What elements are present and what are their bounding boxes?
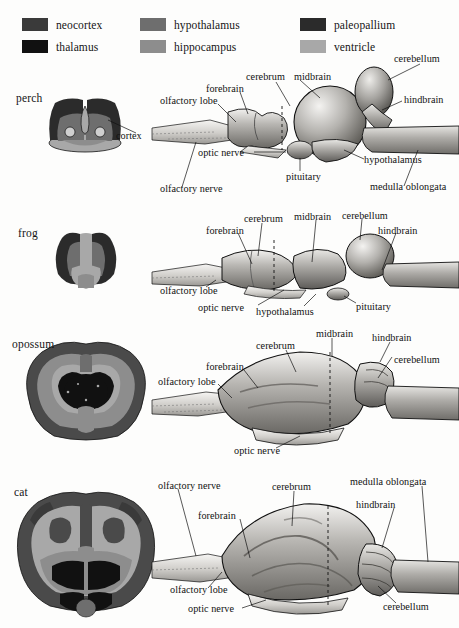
opossum-label-cerebrum: cerebrum xyxy=(256,341,295,351)
opossum-label-optic-nerve: optic nerve xyxy=(234,446,280,456)
cat-label-forebrain: forebrain xyxy=(198,511,236,521)
perch-label-optic-nerve: optic nerve xyxy=(198,148,244,158)
frog-label-midbrain: midbrain xyxy=(294,212,331,222)
comparative-brain-figure: neocortex thalamus hypothalamus hippocam… xyxy=(0,0,459,628)
perch-label-forebrain: forebrain xyxy=(206,84,244,94)
frog-label-forebrain: forebrain xyxy=(206,226,244,236)
species-label-opossum: opossum xyxy=(12,338,54,350)
perch-label-olfactory-lobe: olfactory lobe xyxy=(160,96,218,106)
frog-label-hypothalamus: hypothalamus xyxy=(256,307,314,317)
cat-label-hindbrain: hindbrain xyxy=(356,500,396,510)
perch-label-hindbrain: hindbrain xyxy=(404,95,444,105)
frog-label-optic-nerve: optic nerve xyxy=(198,303,244,313)
cat-label-medulla-oblongata: medulla oblongata xyxy=(350,477,426,487)
perch-label-midbrain: midbrain xyxy=(294,72,331,82)
species-label-frog: frog xyxy=(18,227,38,239)
frog-label-pituitary: pituitary xyxy=(356,302,391,312)
cat-label-optic-nerve: optic nerve xyxy=(188,604,234,614)
opossum-lateral-view xyxy=(152,352,459,445)
frog-label-hindbrain: hindbrain xyxy=(378,226,418,236)
cat-label-cerebellum: cerebellum xyxy=(383,602,429,612)
opossum-label-cerebellum: cerebellum xyxy=(394,355,440,365)
species-label-cat: cat xyxy=(14,486,28,498)
frog-label-cerebellum: cerebellum xyxy=(342,211,388,221)
perch-label-cortex: cortex xyxy=(116,131,142,141)
perch-label-olfactory-nerve: olfactory nerve xyxy=(160,184,223,194)
frog-label-olfactory-lobe: olfactory lobe xyxy=(160,286,218,296)
opossum-label-forebrain: forebrain xyxy=(206,362,244,372)
perch-cross-section xyxy=(49,99,121,152)
perch-label-cerebrum: cerebrum xyxy=(246,72,285,82)
perch-label-hypothalamus: hypothalamus xyxy=(364,155,422,165)
cat-label-cerebrum: cerebrum xyxy=(272,482,311,492)
cat-label-olfactory-nerve: olfactory nerve xyxy=(158,481,221,491)
perch-label-pituitary: pituitary xyxy=(286,172,321,182)
species-label-perch: perch xyxy=(16,92,43,104)
opossum-label-midbrain: midbrain xyxy=(316,329,353,339)
opossum-label-olfactory-lobe: olfactory lobe xyxy=(158,377,216,387)
opossum-label-hindbrain: hindbrain xyxy=(372,333,412,343)
perch-label-cerebellum: cerebellum xyxy=(394,54,440,64)
frog-cross-section xyxy=(56,233,117,289)
opossum-cross-section xyxy=(27,342,146,440)
frog-label-cerebrum: cerebrum xyxy=(244,214,283,224)
cat-label-olfactory-lobe: olfactory lobe xyxy=(170,585,228,595)
cat-cross-section xyxy=(17,492,154,617)
perch-label-medulla-oblongata: medulla oblongata xyxy=(370,182,446,192)
